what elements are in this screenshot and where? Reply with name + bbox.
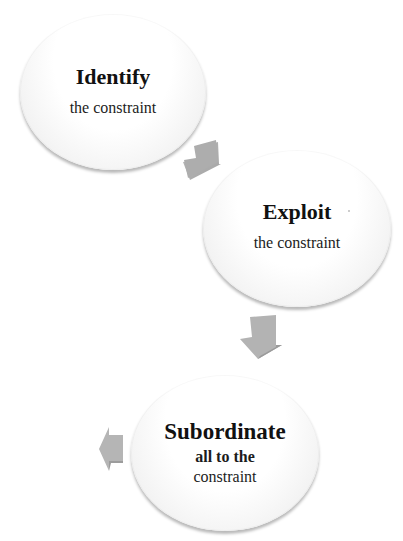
node-title: Exploit xyxy=(263,199,331,225)
node-exploit: Exploit the constraint xyxy=(203,150,391,307)
arrow-down-left-icon xyxy=(236,313,286,361)
node-identify: Identify the constraint xyxy=(20,14,206,170)
node-subtitle-line-2: constraint xyxy=(193,467,256,487)
node-title: Identify xyxy=(76,64,151,90)
node-title: Subordinate xyxy=(164,419,285,445)
stray-dot xyxy=(348,210,350,212)
node-subtitle: the constraint xyxy=(254,233,341,252)
node-subtitle: the constraint xyxy=(70,98,157,117)
arrow-down-right-icon xyxy=(180,138,224,184)
node-subtitle-line-1: all to the xyxy=(195,447,255,467)
arrow-left-icon xyxy=(97,423,127,473)
node-subordinate: Subordinate all to the constraint xyxy=(131,375,319,531)
